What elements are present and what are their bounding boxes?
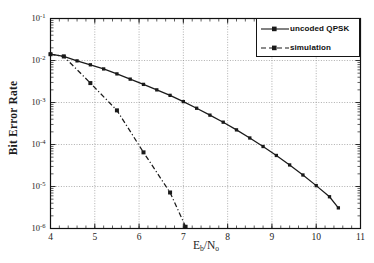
series-marker — [155, 88, 158, 91]
x-tick-label: 8 — [218, 232, 238, 242]
data-series — [49, 52, 341, 229]
series-marker — [168, 94, 171, 97]
series-marker — [337, 206, 340, 209]
y-tick-label: 10-2 — [20, 55, 46, 65]
series-marker — [62, 54, 66, 58]
legend-label-uncoded-qpsk: uncoded QPSK — [290, 24, 349, 33]
y-tick-label: 10-1 — [20, 13, 46, 23]
y-tick-label: 10-4 — [20, 139, 46, 149]
chart-legend: uncoded QPSK simulation — [256, 18, 360, 57]
x-tick-label: 7 — [173, 232, 193, 242]
series-marker — [168, 190, 172, 194]
series-marker — [275, 154, 278, 157]
series-marker — [248, 136, 251, 139]
series-marker — [129, 77, 132, 80]
x-tick-label: 4 — [41, 232, 61, 242]
series-marker — [88, 81, 92, 85]
series-marker — [89, 63, 92, 66]
series-marker — [288, 163, 291, 166]
legend-entry-simulation: simulation — [257, 38, 359, 57]
series-marker — [75, 59, 78, 62]
series-marker — [102, 67, 105, 70]
x-tick-label: 9 — [262, 232, 282, 242]
y-tick-label: 10-6 — [20, 223, 46, 233]
series-marker — [182, 100, 185, 103]
series-marker — [222, 121, 225, 124]
series-marker — [301, 173, 304, 176]
y-tick-label: 10-5 — [20, 181, 46, 191]
series-marker — [328, 195, 331, 198]
series-marker — [235, 128, 238, 131]
series-marker — [315, 184, 318, 187]
legend-line-sample-dashdot — [260, 41, 290, 55]
series-line-simulation — [51, 54, 186, 227]
series-marker — [115, 72, 118, 75]
x-axis-label-sub-o: o — [215, 244, 219, 253]
x-axis-label-no: /N — [204, 239, 216, 251]
legend-line-sample-solid — [260, 22, 290, 36]
x-axis-label-sub-b: b — [200, 244, 204, 253]
x-tick-label: 5 — [85, 232, 105, 242]
x-tick-label: 6 — [129, 232, 149, 242]
x-tick-label: 11 — [351, 232, 371, 242]
series-marker — [115, 108, 119, 112]
x-tick-label: 10 — [306, 232, 326, 242]
x-axis-label-eb: E — [193, 239, 200, 251]
series-marker — [261, 145, 264, 148]
legend-label-simulation: simulation — [290, 43, 331, 52]
y-tick-label: 10-3 — [20, 97, 46, 107]
legend-entry-uncoded-qpsk: uncoded QPSK — [257, 19, 359, 38]
series-line-uncoded-qpsk — [51, 54, 339, 208]
series-marker — [195, 107, 198, 110]
chart-figure: Bit Error Rate Eb/No uncoded QPSK simula… — [0, 0, 374, 263]
series-marker — [142, 150, 146, 154]
series-marker — [208, 113, 211, 116]
series-marker — [142, 83, 145, 86]
